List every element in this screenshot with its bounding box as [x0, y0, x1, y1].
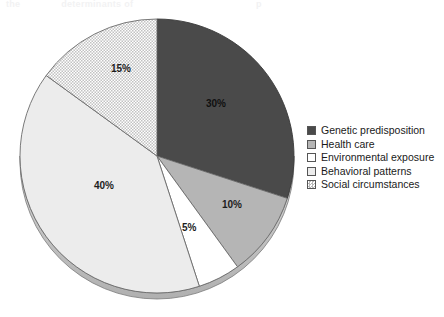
legend-swatch-icon — [307, 180, 316, 189]
legend-item-label: Genetic predisposition — [321, 124, 425, 138]
legend-item-social-circumstances[interactable]: Social circumstances — [307, 178, 444, 192]
legend-item-behavioral-patterns[interactable]: Behavioral patterns — [307, 165, 444, 179]
slice-label-health-care: 10% — [222, 199, 242, 210]
legend-swatch-icon — [307, 153, 316, 162]
pie-slice-group — [20, 19, 294, 293]
legend-item-label: Environmental exposure — [321, 151, 434, 165]
legend-item-label: Health care — [321, 138, 375, 152]
legend-item-environmental-exposure[interactable]: Environmental exposure — [307, 151, 444, 165]
chart-legend: Genetic predisposition Health care Envir… — [307, 124, 444, 192]
legend-swatch-icon — [307, 167, 316, 176]
legend-swatch-icon — [307, 140, 316, 149]
slice-label-social-circumstances: 15% — [111, 63, 131, 74]
legend-item-label: Social circumstances — [321, 178, 420, 192]
slice-label-environmental-exposure: 5% — [182, 222, 196, 233]
slice-label-genetic-predisposition: 30% — [206, 98, 226, 109]
legend-item-health-care[interactable]: Health care — [307, 138, 444, 152]
legend-swatch-icon — [307, 126, 316, 135]
legend-item-label: Behavioral patterns — [321, 165, 411, 179]
slice-label-behavioral-patterns: 40% — [94, 180, 114, 191]
legend-item-genetic-predisposition[interactable]: Genetic predisposition — [307, 124, 444, 138]
